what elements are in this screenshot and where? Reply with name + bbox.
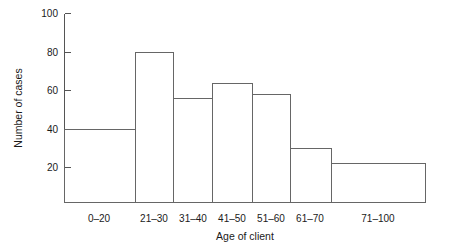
y-tick-label-80: 80 (47, 47, 59, 58)
x-label-21-30: 21–30 (140, 213, 168, 224)
y-tick-label-40: 40 (47, 124, 59, 135)
x-label-61-70: 61–70 (296, 213, 324, 224)
y-tick-marks (65, 14, 71, 168)
bar-21-30[interactable] (135, 52, 173, 203)
y-tick-labels: 100 80 60 40 20 (41, 8, 58, 173)
y-tick-label-20: 20 (47, 162, 59, 173)
y-tick-label-60: 60 (47, 85, 59, 96)
bar-71-100[interactable] (331, 164, 426, 203)
bar-31-40[interactable] (173, 99, 213, 203)
x-label-31-40: 31–40 (179, 213, 207, 224)
x-label-71-100: 71–100 (361, 213, 395, 224)
bar-51-60[interactable] (252, 95, 290, 203)
x-category-labels: 0–20 21–30 31–40 41–50 51–60 61–70 71–10… (88, 213, 395, 224)
bar-61-70[interactable] (290, 148, 331, 203)
bar-41-50[interactable] (213, 83, 253, 203)
x-label-51-60: 51–60 (257, 213, 285, 224)
y-axis-title: Number of cases (12, 68, 24, 147)
x-label-0-20: 0–20 (88, 213, 111, 224)
bar-0-20[interactable] (65, 129, 136, 203)
histogram-figure: 100 80 60 40 20 Number of cases 0–20 21–… (0, 0, 465, 248)
y-tick-label-100: 100 (41, 8, 58, 19)
bars-group (65, 52, 426, 203)
x-axis-title: Age of client (216, 230, 274, 242)
x-label-41-50: 41–50 (218, 213, 246, 224)
chart-canvas: 100 80 60 40 20 Number of cases 0–20 21–… (0, 0, 465, 248)
axes-group (65, 14, 426, 203)
